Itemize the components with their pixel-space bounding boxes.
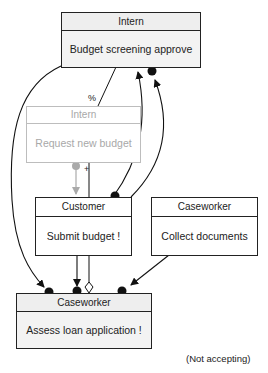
task-node-submit-budget[interactable]: Customer Submit budget ! xyxy=(35,197,132,256)
node-role-label: Customer xyxy=(36,198,131,217)
node-task-label: Request new budget xyxy=(27,124,140,162)
node-task-label: Assess loan application ! xyxy=(17,312,151,348)
edge-percent-link xyxy=(98,67,116,106)
status-text: (Not accepting) xyxy=(186,353,250,364)
node-task-label: Collect documents xyxy=(152,217,257,255)
plus-label: + xyxy=(84,164,89,174)
node-task-label: Budget screening approve xyxy=(62,31,200,67)
node-role-label: Caseworker xyxy=(17,294,151,312)
node-role-label: Caseworker xyxy=(152,198,257,217)
dot-connector-icon xyxy=(72,162,80,170)
task-node-assess-loan[interactable]: Caseworker Assess loan application ! xyxy=(16,293,152,349)
process-diagram: Intern Budget screening approve % Intern… xyxy=(0,0,268,373)
diamond-connector-icon xyxy=(85,282,93,293)
node-role-label: Intern xyxy=(62,13,200,31)
task-node-budget-screening[interactable]: Intern Budget screening approve xyxy=(61,12,201,68)
node-task-label: Submit budget ! xyxy=(36,217,131,255)
task-node-request-new-budget[interactable]: Intern Request new budget xyxy=(26,106,141,163)
task-node-collect-documents[interactable]: Caseworker Collect documents xyxy=(151,197,258,256)
edge-collect-to-assess xyxy=(131,255,169,285)
percent-label: % xyxy=(88,93,96,103)
node-role-label: Intern xyxy=(27,107,140,124)
